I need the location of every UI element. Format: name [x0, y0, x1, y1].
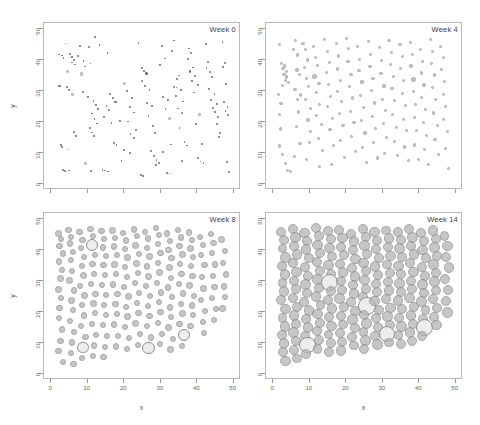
x-tick-mark [50, 189, 51, 193]
data-point [326, 50, 329, 53]
data-point [181, 112, 183, 114]
panel-label: Week 0 [210, 25, 237, 34]
x-tick-label: 30 [378, 385, 385, 391]
data-point [208, 88, 210, 90]
data-point [189, 237, 195, 243]
data-point [209, 71, 211, 73]
data-point [328, 61, 331, 64]
data-point [169, 294, 175, 300]
x-tick-mark [345, 379, 346, 383]
data-point [413, 116, 416, 119]
data-point [328, 128, 331, 131]
panel-plot-area [43, 22, 240, 189]
data-point [119, 120, 121, 122]
data-point [200, 161, 202, 163]
data-point [316, 64, 319, 67]
data-point [102, 272, 108, 278]
data-point [90, 170, 92, 172]
x-tick-mark [455, 379, 456, 383]
data-point [363, 131, 366, 134]
data-point [323, 38, 326, 41]
data-point [304, 98, 307, 101]
data-point [175, 95, 177, 97]
data-point [444, 262, 455, 273]
data-point [368, 65, 371, 68]
data-point [399, 67, 402, 70]
data-point [73, 59, 75, 61]
data-point [224, 62, 226, 64]
data-point [145, 72, 147, 74]
data-point [198, 297, 204, 303]
data-point [71, 93, 74, 96]
y-tick-label: 40 [35, 59, 41, 66]
data-point [144, 85, 146, 87]
data-point [389, 63, 392, 66]
y-tick-label: 10 [257, 152, 263, 159]
data-point [443, 285, 453, 295]
data-point [141, 67, 143, 69]
data-point [154, 280, 160, 286]
figure-canvas: 01020304050Week 001020304050Week 4010203… [0, 0, 480, 425]
data-point [277, 93, 280, 96]
data-point [392, 75, 395, 78]
data-point [440, 68, 443, 71]
data-point [60, 144, 62, 146]
data-point [107, 171, 109, 173]
y-tick-label: 0 [257, 373, 263, 376]
data-point [91, 271, 97, 277]
data-point [90, 233, 96, 239]
data-point [70, 249, 76, 255]
data-point [93, 332, 99, 338]
data-point [177, 261, 183, 267]
y-tick-label: 20 [35, 121, 41, 128]
data-point [90, 63, 91, 64]
data-point [419, 48, 422, 51]
data-point [177, 108, 179, 110]
data-point [358, 58, 361, 61]
data-point [306, 118, 309, 121]
data-point [315, 91, 318, 94]
data-point [124, 313, 130, 319]
data-point [130, 133, 132, 135]
data-point [349, 341, 359, 351]
data-point [138, 42, 140, 44]
x-tick-label: 10 [305, 385, 312, 391]
data-point [325, 71, 328, 74]
data-point [64, 170, 66, 172]
data-point [213, 306, 219, 312]
data-point [61, 55, 63, 57]
data-point [90, 300, 97, 307]
data-point [57, 275, 64, 282]
data-point [178, 329, 190, 341]
data-point [88, 46, 90, 48]
data-point [102, 169, 104, 171]
data-point [111, 122, 113, 124]
x-tick-mark [160, 379, 161, 383]
data-point [218, 236, 225, 243]
data-point [99, 282, 106, 289]
data-point [442, 307, 453, 318]
data-point [385, 136, 388, 139]
panel-label: Week 4 [432, 25, 459, 34]
data-point [187, 245, 194, 252]
data-point [58, 85, 61, 88]
data-point [382, 84, 385, 87]
data-point [144, 323, 150, 329]
data-point [201, 330, 207, 336]
y-tick-label: 40 [35, 249, 41, 256]
data-point [309, 130, 312, 133]
data-point [414, 103, 417, 106]
data-point [351, 96, 354, 99]
data-point [179, 343, 185, 349]
data-point [186, 145, 188, 147]
data-point [393, 140, 396, 143]
data-point [79, 302, 85, 308]
data-point [369, 53, 372, 56]
data-point [81, 312, 88, 319]
data-point [197, 84, 199, 86]
data-point [131, 97, 133, 99]
data-point [356, 45, 359, 48]
data-point [301, 349, 311, 359]
data-point [69, 339, 75, 345]
data-point [103, 253, 109, 259]
